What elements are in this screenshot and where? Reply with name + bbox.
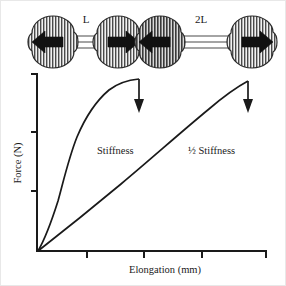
mass-node-4 <box>227 16 277 68</box>
figure-container: L 2L <box>0 0 286 286</box>
mass-node-1 <box>28 16 78 68</box>
schematic-group: L 2L <box>28 13 277 68</box>
x-axis-title: Elongation (mm) <box>129 264 202 276</box>
half-stiffness-failure-arrow-head <box>243 99 253 113</box>
stiffness-label: Stiffness <box>97 145 134 156</box>
half-stiffness-label: ½ Stiffness <box>188 145 235 156</box>
figure-canvas: L 2L <box>1 1 286 286</box>
mass-node-3 <box>135 16 185 68</box>
series-curve-half-stiffness <box>38 81 248 251</box>
length-label-L: L <box>83 13 90 25</box>
y-axis-title: Force (N) <box>12 142 24 184</box>
chart-group: Stiffness ½ Stiffness Force (N) Elongati… <box>12 73 267 276</box>
stiffness-failure-arrow-head <box>134 99 144 113</box>
length-label-2L: 2L <box>195 13 208 25</box>
series-curve-stiffness <box>38 79 139 251</box>
